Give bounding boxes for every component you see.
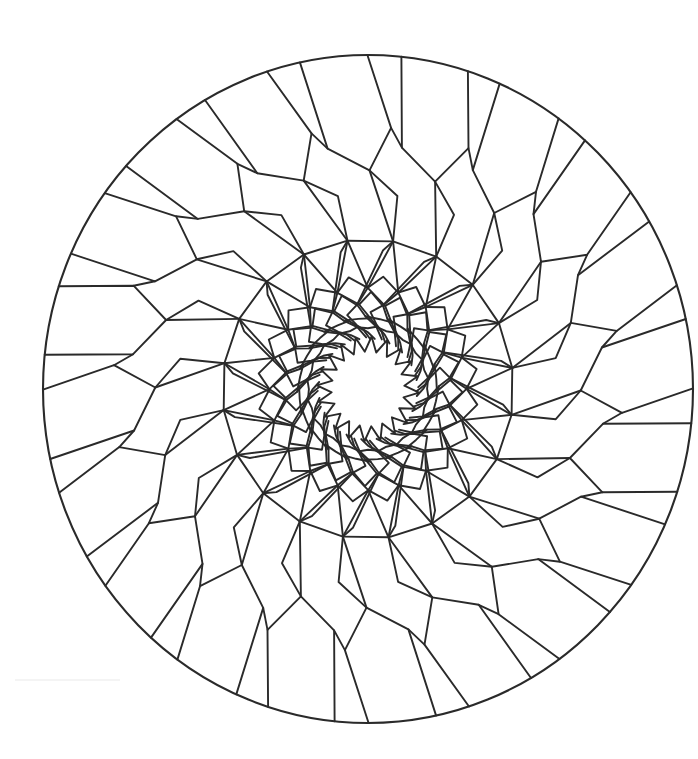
ring1-chord-line [436, 257, 473, 285]
bridge-line [134, 281, 155, 285]
center-star-outline [317, 337, 419, 442]
bridge-line [603, 413, 622, 424]
ring1-chord-line [348, 241, 394, 242]
ring1-chord-line [512, 368, 513, 415]
inner-rung-1-line [309, 448, 327, 466]
figure-canvas [0, 0, 698, 759]
rim-pentagon-line [534, 140, 631, 261]
rim-pentagon-line [105, 516, 202, 637]
tip-to-ring1-line [197, 259, 267, 281]
kite-line [166, 301, 239, 320]
tip-to-ring1-line [166, 319, 239, 320]
rim-pentagon-line [71, 193, 197, 281]
ring1-chord-line [432, 497, 469, 524]
kite-line [497, 458, 570, 477]
circular-tiling-diagram [0, 0, 698, 759]
rim-pentagon-line [268, 596, 335, 721]
inner-rung-2-line [299, 387, 301, 414]
ring1-chord-line [300, 521, 343, 536]
rim-pentagon-line [401, 57, 468, 182]
tip-to-ring1-line [432, 524, 492, 567]
rim-pentagon-line [45, 286, 166, 355]
rim-pentagon-line [205, 72, 312, 181]
ring1-chord-line [263, 493, 300, 521]
sector-3 [412, 140, 631, 407]
rim-pentagon-line [177, 565, 263, 694]
inner-rung-1-line [409, 312, 427, 330]
tip-to-ring1-line [242, 493, 263, 565]
bridge-line [469, 148, 473, 170]
kite-line [469, 497, 539, 527]
tip-to-ring1-line [300, 521, 301, 596]
bridge-line [263, 608, 267, 630]
rim-pentagon-line [570, 423, 691, 492]
kite-line [473, 213, 503, 285]
tip-to-ring1-line [473, 213, 495, 285]
ring1-chord-line [224, 363, 225, 410]
sector-13 [105, 371, 324, 638]
ring1-chord-line [497, 415, 512, 459]
inner-rung-2-line [344, 318, 371, 320]
rim-pentagon-line [345, 608, 436, 723]
rim-pentagon-line [425, 597, 532, 706]
ring1-chord-line [237, 455, 263, 493]
rim-pentagon-line [126, 119, 244, 219]
rim-pentagon-line [473, 84, 559, 213]
kite-line [197, 251, 267, 281]
inner-rung-2-line [366, 457, 393, 459]
bridge-line [391, 128, 402, 148]
ring1-chord-line [473, 285, 499, 323]
rim-pentagon-line [581, 319, 693, 413]
sector-18 [126, 119, 386, 344]
rim-pentagon-line [571, 222, 677, 331]
ring1-chord-line [239, 281, 266, 319]
tip-to-ring1-line [244, 211, 304, 254]
rim-pentagon-line [492, 559, 610, 659]
kite-line [282, 521, 301, 596]
tip-to-ring1-line [435, 182, 436, 257]
rim-pentagon-line [539, 497, 665, 585]
inner-rung-1-line [293, 328, 310, 347]
kite-line [435, 182, 454, 257]
rim-pentagon-line [300, 55, 391, 170]
sector-8 [350, 434, 610, 659]
ring1-chord-line [267, 255, 304, 282]
tip-to-ring1-line [499, 262, 541, 323]
inner-rung-2-line [435, 364, 437, 391]
rim-pentagon-line [59, 447, 165, 556]
bridge-line [114, 354, 133, 365]
tip-to-ring1-line [497, 458, 570, 459]
bridge-line [581, 492, 602, 496]
tip-to-ring1-line [469, 497, 539, 519]
bridge-line [334, 630, 345, 650]
ring1-chord-line [393, 241, 436, 256]
rim-pentagon-line [43, 365, 155, 459]
kite-line [234, 493, 263, 565]
tip-to-ring1-line [195, 455, 237, 516]
inner-rung-1-line [426, 431, 443, 450]
ring1-chord-line [224, 319, 239, 363]
ring1-chord-line [343, 537, 389, 538]
ring1-chord-line [469, 459, 496, 497]
